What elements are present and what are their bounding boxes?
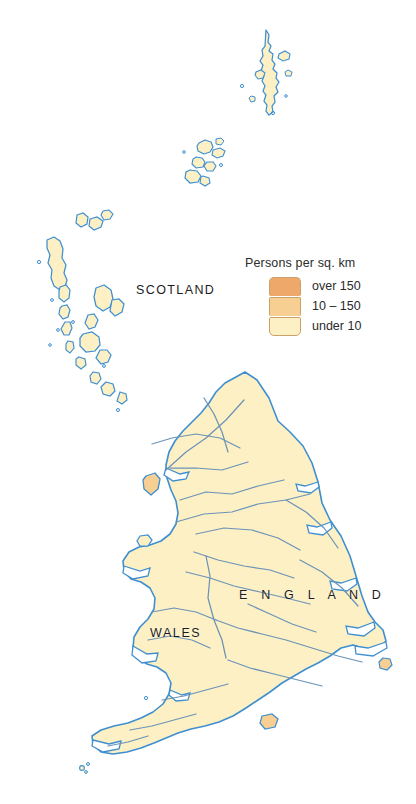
isle-of-thanet: [379, 658, 392, 670]
map-canvas: SCOTLAND E N G L A N D WALES Persons per…: [0, 0, 416, 804]
isle-of-man: [143, 473, 160, 495]
inner-hebrides: [72, 285, 127, 412]
isles-of-scilly: [80, 763, 90, 774]
lundy-island: [144, 696, 147, 699]
isle-of-wight: [260, 714, 278, 729]
shetland-islands: [240, 30, 292, 115]
anglesey: [137, 535, 152, 546]
outer-hebrides: [37, 210, 113, 353]
orkney-islands: [183, 138, 225, 186]
uk-population-density-map: [0, 0, 416, 804]
mainland-great-britain: [0, 0, 416, 804]
